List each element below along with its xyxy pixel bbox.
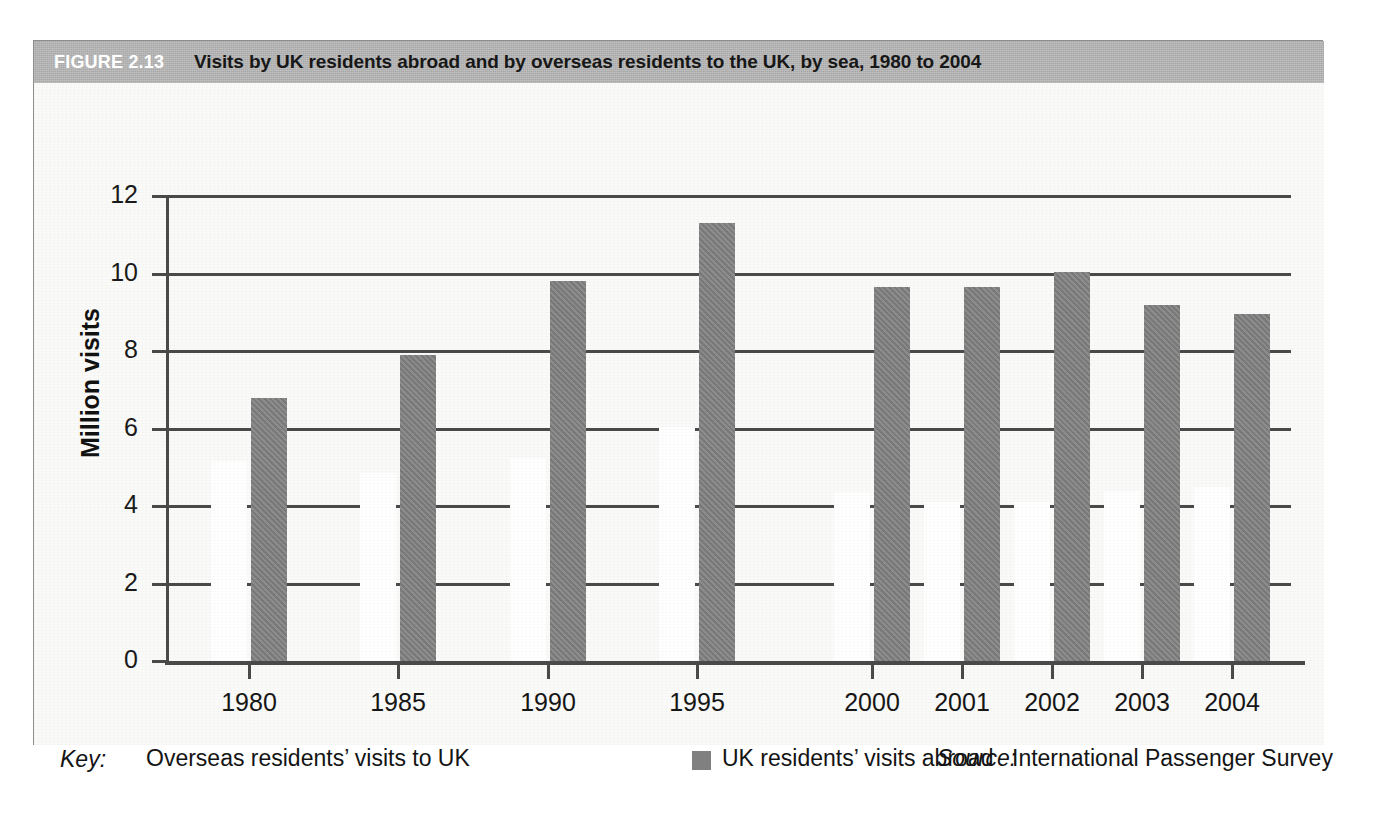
bar-overseas-2000 [834,492,870,661]
x-tick-mark [547,663,550,679]
y-tick-mark [152,660,168,663]
plot-area: 024681012 198019851990199520002001200220… [166,196,1291,661]
bar-uk-2003 [1144,305,1180,662]
bar-overseas-1990 [510,458,546,661]
source-label: Source: [937,745,1016,772]
x-tick-mark [248,663,251,679]
bar-overseas-2001 [924,502,960,661]
bar-uk-2000 [874,287,910,661]
bar-uk-1990 [550,281,586,661]
figure-title: Visits by UK residents abroad and by ove… [194,51,981,73]
x-tick-mark [1231,663,1234,679]
bar-uk-2002 [1054,272,1090,661]
y-tick-mark [152,583,168,586]
y-tick-label: 6 [78,413,138,442]
x-tick-mark [696,663,699,679]
x-tick-label-1980: 1980 [189,688,309,717]
x-tick-mark [871,663,874,679]
y-tick-label: 12 [78,180,138,209]
x-tick-mark [961,663,964,679]
figure-body: Million visits 024681012 198019851990199… [34,83,1324,745]
x-tick-mark [1141,663,1144,679]
y-tick-mark [152,273,168,276]
legend-row: Key: Overseas residents’ visits to UK UK… [34,738,1324,782]
x-tick-label-1990: 1990 [488,688,608,717]
x-tick-mark [397,663,400,679]
y-tick-mark [152,505,168,508]
y-tick-label: 2 [78,568,138,597]
figure-number-label: FIGURE 2.13 [54,52,164,73]
y-tick-label: 10 [78,258,138,287]
gridline [166,195,1291,198]
legend-swatch-gray [692,751,711,770]
bar-overseas-2004 [1194,487,1230,661]
y-tick-mark [152,428,168,431]
bar-overseas-2003 [1104,491,1140,662]
y-tick-label: 4 [78,490,138,519]
figure-page: FIGURE 2.13 Visits by UK residents abroa… [0,0,1373,813]
x-tick-label-1995: 1995 [637,688,757,717]
bar-overseas-1985 [360,473,396,661]
bar-uk-1980 [251,398,287,662]
y-tick-mark [152,195,168,198]
x-tick-label-1985: 1985 [338,688,458,717]
bar-overseas-2002 [1014,502,1050,661]
bar-uk-1995 [699,223,735,661]
figure-title-banner: FIGURE 2.13 Visits by UK residents abroa… [34,41,1324,83]
y-tick-label: 8 [78,335,138,364]
x-tick-label-2004: 2004 [1172,688,1292,717]
source-text: International Passenger Survey [1012,745,1333,772]
y-tick-mark [152,350,168,353]
x-axis-line [165,661,1305,665]
bar-uk-2004 [1234,314,1270,661]
bar-uk-2001 [964,287,1000,661]
plot-inner: 024681012 198019851990199520002001200220… [166,196,1291,661]
legend-entry-overseas: Overseas residents’ visits to UK [146,745,470,772]
bar-uk-1985 [400,355,436,661]
bar-overseas-1995 [659,427,695,661]
y-tick-label: 0 [78,645,138,674]
x-tick-mark [1051,663,1054,679]
legend-key-label: Key: [60,746,106,773]
bar-overseas-1980 [211,461,247,661]
figure-frame: FIGURE 2.13 Visits by UK residents abroa… [33,40,1323,745]
